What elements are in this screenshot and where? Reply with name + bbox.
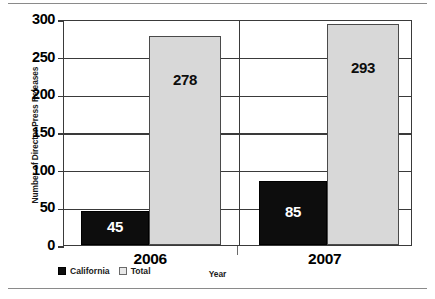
bar-california-2006: 45 — [81, 211, 149, 245]
top-divider-rule — [8, 3, 427, 4]
chart-legend: CaliforniaTotal — [58, 266, 151, 276]
black-square-swatch — [58, 267, 66, 275]
y-axis-tick-label: 250 — [17, 49, 55, 65]
light-gray-square-swatch — [119, 267, 127, 275]
legend-label: California — [70, 266, 110, 276]
bottom-divider-rule — [8, 288, 427, 289]
y-axis-tick-mark — [58, 58, 64, 60]
x-axis-category-label: 2007 — [238, 250, 413, 268]
y-axis-tick-mark — [58, 133, 64, 135]
y-axis-tick-label: 100 — [17, 162, 55, 178]
bar-california-2007: 85 — [259, 181, 327, 245]
y-axis-tick-label: 0 — [17, 237, 55, 253]
y-axis-tick-label: 150 — [17, 124, 55, 140]
bar-value-label: 45 — [82, 218, 148, 235]
legend-item-california[interactable]: California — [58, 266, 110, 276]
y-axis-tick-mark — [58, 20, 64, 22]
legend-item-total[interactable]: Total — [119, 266, 151, 276]
bar-total-2007: 293 — [327, 24, 399, 245]
bar-value-label: 278 — [150, 71, 220, 88]
bar-chart-figure: Number of Director Press Releases 300250… — [0, 0, 435, 299]
y-axis-tick-mark — [58, 209, 64, 211]
y-axis-tick-mark — [58, 96, 64, 98]
y-axis-tick-label: 200 — [17, 86, 55, 102]
y-axis-tick-label: 300 — [17, 11, 55, 27]
group-separator-line — [239, 21, 241, 245]
bar-value-label: 293 — [328, 59, 398, 76]
y-axis-tick-label: 50 — [17, 199, 55, 215]
bar-value-label: 85 — [260, 203, 326, 220]
plot-area: 4527885293 — [63, 20, 412, 246]
legend-label: Total — [131, 266, 151, 276]
y-axis-tick-mark — [58, 246, 64, 248]
y-axis-tick-mark — [58, 171, 64, 173]
bar-total-2006: 278 — [149, 36, 221, 245]
